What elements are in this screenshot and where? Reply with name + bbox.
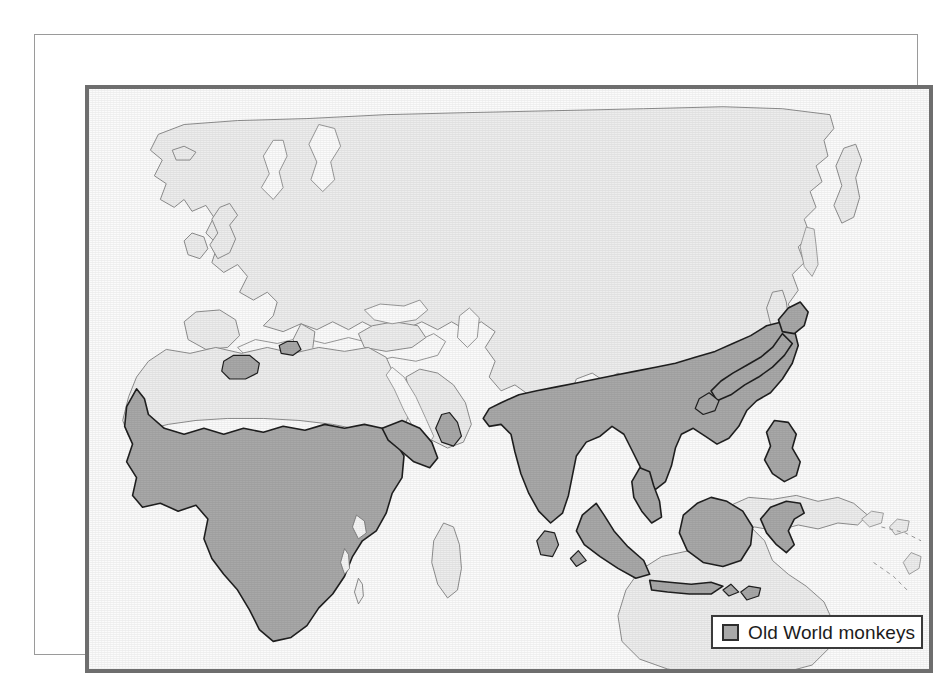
figure-root: .land { fill: #ededed; stroke: #8c8c8c; … (0, 0, 952, 674)
legend-label: Old World monkeys (748, 623, 915, 642)
map-legend: Old World monkeys (711, 615, 923, 649)
legend-swatch-icon (722, 624, 739, 641)
range-morocco-barbary-macaque (222, 355, 260, 379)
outer-frame: .land { fill: #ededed; stroke: #8c8c8c; … (34, 34, 918, 655)
map-frame: .land { fill: #ededed; stroke: #8c8c8c; … (85, 85, 933, 673)
world-map: .land { fill: #ededed; stroke: #8c8c8c; … (89, 89, 929, 669)
